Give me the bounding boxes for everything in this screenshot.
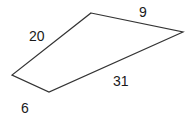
quadrilateral-diagram: 20 9 31 6 [0,0,193,114]
quadrilateral-shape [12,13,183,92]
side-label-top-left: 20 [29,28,45,44]
side-label-top-right: 9 [139,4,147,20]
side-label-bottom-right: 31 [113,73,129,89]
side-label-bottom-left: 6 [21,100,29,114]
